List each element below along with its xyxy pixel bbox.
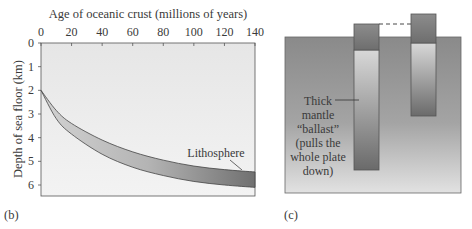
lithosphere-label: Lithosphere <box>187 146 244 160</box>
annotation-line: whole plate <box>290 150 346 164</box>
x-tick-label: 0 <box>38 25 44 39</box>
left-plate-crust <box>354 24 379 50</box>
annotation-line: (pulls the <box>296 136 341 150</box>
y-tick-label: 3 <box>28 107 34 121</box>
thick-mantle-ballast-column <box>354 50 379 170</box>
y-tick-label: 2 <box>28 83 34 97</box>
annotation-line: mantle <box>302 108 335 122</box>
x-tick-label: 20 <box>66 25 78 39</box>
y-tick-label: 0 <box>28 36 34 50</box>
annotation-line: Thick <box>304 94 332 108</box>
y-tick-label: 1 <box>28 60 34 74</box>
panel-c-label: (c) <box>284 208 298 222</box>
annotation-line: “ballast” <box>297 122 339 136</box>
figure: Age of oceanic crust (millions of years)… <box>0 0 472 229</box>
y-axis-label: Depth of sea floor (km) <box>11 60 25 178</box>
x-tick-label: 60 <box>127 25 139 39</box>
y-tick-label: 5 <box>28 154 34 168</box>
y-tick-label: 6 <box>28 178 34 192</box>
panel-c-diagram: Thick mantle “ballast” (pulls the whole … <box>284 14 461 222</box>
right-plate-crust <box>411 14 436 43</box>
x-tick-label: 40 <box>96 25 108 39</box>
annotation-line: down) <box>303 164 334 178</box>
x-tick-label: 100 <box>185 25 203 39</box>
y-tick-label: 4 <box>28 131 34 145</box>
y-ticks: 0123456 <box>28 36 41 192</box>
x-tick-label: 120 <box>215 25 233 39</box>
panel-b-label: (b) <box>4 208 19 222</box>
x-axis-label: Age of oceanic crust (millions of years) <box>49 7 248 21</box>
panel-b-chart: Age of oceanic crust (millions of years)… <box>4 7 264 222</box>
x-tick-label: 80 <box>157 25 169 39</box>
thin-mantle-column <box>411 43 436 116</box>
x-tick-label: 140 <box>246 25 264 39</box>
